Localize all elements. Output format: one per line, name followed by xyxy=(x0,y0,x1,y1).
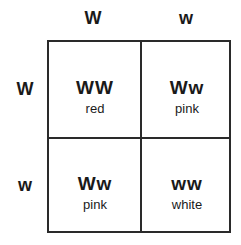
phenotype: red xyxy=(50,102,140,115)
cell-r2-c2: ww white xyxy=(142,174,232,211)
punnett-square: WW red Ww pink Ww pink ww white xyxy=(47,40,231,233)
horizontal-divider xyxy=(49,137,229,139)
cell-r2-c1: Ww pink xyxy=(50,174,140,211)
cell-r1-c1: WW red xyxy=(50,78,140,115)
cell-r1-c2: Ww pink xyxy=(142,78,232,115)
genotype: WW xyxy=(50,78,140,97)
column-header-1: W xyxy=(78,9,108,27)
phenotype: pink xyxy=(142,102,232,115)
row-header-2: w xyxy=(10,176,40,194)
genotype: Ww xyxy=(50,174,140,193)
row-header-1: W xyxy=(10,80,40,98)
genotype: ww xyxy=(142,174,232,193)
genotype: Ww xyxy=(142,78,232,97)
phenotype: pink xyxy=(50,198,140,211)
column-header-2: w xyxy=(171,9,201,27)
phenotype: white xyxy=(142,198,232,211)
